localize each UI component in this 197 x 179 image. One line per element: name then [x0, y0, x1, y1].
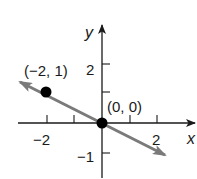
coordinate-plane-figure: y x 2 −1 −2 2 (−2, 1) (0, 0) [0, 0, 197, 179]
x-tick-label-neg2: −2 [33, 131, 50, 148]
y-tick-label-2: 2 [86, 61, 94, 78]
y-axis-label: y [84, 24, 94, 41]
x-axis-label: x [186, 130, 196, 147]
point-neg2-1 [41, 87, 52, 98]
y-tick-label-neg1: −1 [77, 148, 94, 165]
point-label-origin: (0, 0) [107, 98, 142, 115]
x-tick-label-2: 2 [152, 131, 160, 148]
point-origin [97, 118, 108, 129]
point-label-neg2-1: (−2, 1) [24, 62, 68, 79]
graph-svg: y x 2 −1 −2 2 (−2, 1) (0, 0) [0, 0, 197, 179]
